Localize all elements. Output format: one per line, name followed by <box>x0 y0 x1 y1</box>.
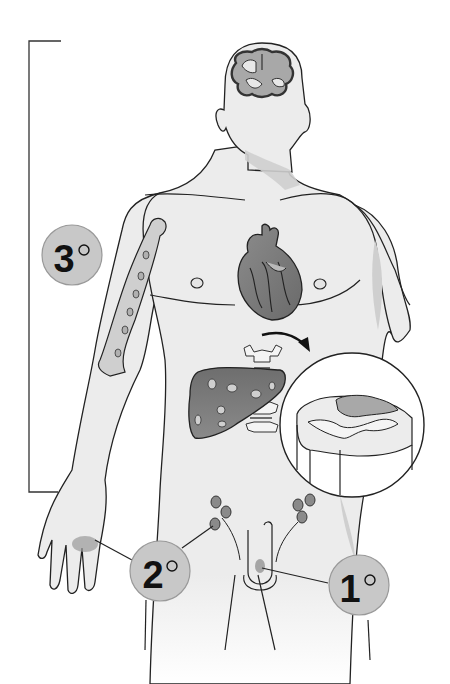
stages-illustration: 3 2 1 <box>0 0 450 684</box>
primary-label: 1 <box>329 555 389 615</box>
secondary-label-number: 2 <box>142 554 163 596</box>
right-nipple <box>314 279 326 289</box>
primary-label-number: 1 <box>339 568 360 610</box>
brain <box>232 49 293 97</box>
spinal-cord-cross-section <box>280 353 424 497</box>
secondary-label: 2 <box>130 541 190 601</box>
left-nipple <box>191 278 203 288</box>
primary-chancre <box>255 559 265 573</box>
tertiary-label-number: 3 <box>53 238 74 280</box>
tertiary-label: 3 <box>42 225 102 285</box>
secondary-leader-hand <box>95 540 132 560</box>
palm-rash <box>72 536 98 552</box>
